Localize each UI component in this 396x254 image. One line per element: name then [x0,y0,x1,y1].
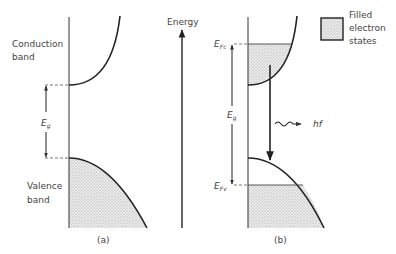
conduction-band-curve-a [69,16,120,85]
legend-line3: states [349,36,377,46]
energy-label: Energy [167,17,199,27]
caption-a: (a) [97,235,110,245]
legend: Filled electron states [321,10,386,46]
gap-label-b: Eg [227,110,237,122]
panel-b: Eg EFc EFv hf (b) [214,16,324,245]
valence-band-label-line1: Valence [27,181,63,191]
photon-label: hf [313,119,324,129]
legend-line2: electron [349,23,386,33]
valence-band-label-line2: band [27,195,50,205]
caption-b: (b) [274,235,287,245]
fermi-v-label: EFv [214,181,227,192]
panel-a: Eg Conduction band Valence band (a) [12,16,147,245]
energy-axis: Energy [167,17,199,228]
conduction-band-label-line2: band [12,52,35,62]
gap-label-a: Eg [41,118,51,130]
conduction-band-label-line1: Conduction [12,39,63,49]
valence-band-fill-a [69,158,147,228]
legend-swatch [321,18,343,40]
legend-line1: Filled [349,10,372,20]
photon-wave-icon [275,122,301,126]
band-diagram: Eg Conduction band Valence band (a) Ener… [0,0,396,254]
fermi-c-label: EFc [214,39,227,50]
